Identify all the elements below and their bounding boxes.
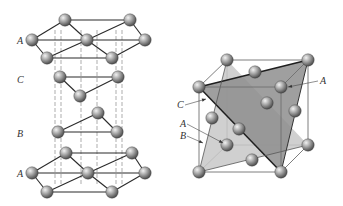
layer-A-bottom <box>26 147 151 198</box>
atom <box>52 126 64 138</box>
atom <box>54 71 66 83</box>
stacking-sequence-diagram: ACBA <box>16 14 151 198</box>
bond <box>47 173 88 192</box>
layer-label: A <box>16 35 24 46</box>
atom <box>92 107 104 119</box>
face-center-atom <box>249 66 261 78</box>
atom <box>26 34 38 46</box>
layer-B <box>52 107 123 138</box>
atom <box>59 14 71 26</box>
face-center-atom <box>246 154 258 166</box>
arrowhead-icon <box>202 99 206 102</box>
atom <box>139 34 151 46</box>
atom <box>124 14 136 26</box>
corner-atom <box>193 166 205 178</box>
corner-atom <box>275 81 287 93</box>
layer-label: A <box>16 168 24 179</box>
atom <box>139 167 151 179</box>
face-center-atom <box>206 112 218 124</box>
atom <box>26 167 38 179</box>
atom <box>82 167 94 179</box>
face-center-atom <box>289 105 301 117</box>
layer-label: B <box>17 128 23 139</box>
face-center-atom <box>261 97 273 109</box>
face-center-atom <box>233 123 245 135</box>
atom <box>81 34 93 46</box>
atom <box>126 147 138 159</box>
corner-atom <box>221 139 233 151</box>
fcc-cube-diagram: ACAB <box>177 54 327 178</box>
bond <box>88 153 132 173</box>
atom <box>41 186 53 198</box>
atom <box>60 147 72 159</box>
atom <box>41 52 53 64</box>
atom <box>106 186 118 198</box>
corner-atom <box>193 81 205 93</box>
plane-label: A <box>319 75 327 86</box>
layer-C <box>54 71 124 102</box>
atom <box>111 126 123 138</box>
corner-atom <box>275 166 287 178</box>
bond <box>87 20 130 40</box>
bond <box>58 113 98 132</box>
atom <box>74 90 86 102</box>
layer-A-top <box>26 14 151 64</box>
layer-label: C <box>17 74 24 85</box>
corner-atom <box>302 54 314 66</box>
plane-label: A <box>179 118 187 129</box>
corner-atom <box>221 54 233 66</box>
plane-label: C <box>177 99 184 110</box>
corner-atom <box>302 139 314 151</box>
crystal-stacking-figure: ACBA ACAB <box>0 0 343 206</box>
atom <box>112 71 124 83</box>
plane-label: B <box>180 130 186 141</box>
atom <box>106 52 118 64</box>
